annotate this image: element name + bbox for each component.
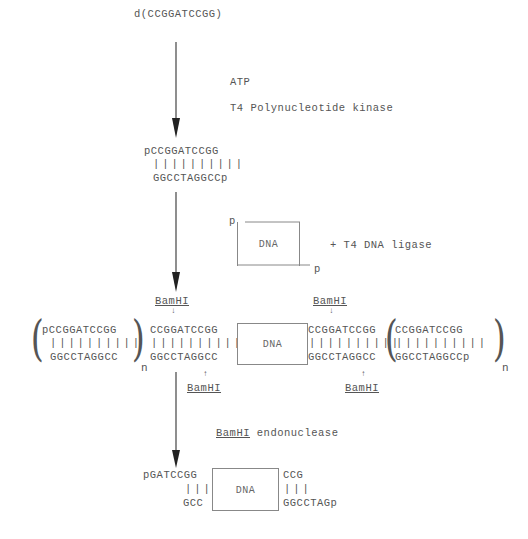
left-repeat-bonds: |||||||||| bbox=[50, 338, 142, 349]
left-repeat-top: pCCGGATCCGG bbox=[42, 325, 117, 336]
dna-fragment-box: DNA bbox=[237, 323, 308, 365]
final-right-bonds: ||| bbox=[284, 484, 312, 495]
cut-arrow-down-icon: ↓ bbox=[329, 307, 334, 315]
dna-fragment-label: DNA bbox=[238, 339, 307, 350]
right-repeat-bonds: |||||||||| bbox=[396, 338, 488, 349]
dna-fragment-box: DNA bbox=[237, 222, 300, 266]
right-linker-bottom: GGCCTAGGCC bbox=[308, 352, 376, 363]
reagent-atp: ATP bbox=[230, 77, 250, 88]
left-linker-top: CCGGATCCGG bbox=[150, 325, 218, 336]
enzyme-suffix: endonuclease bbox=[250, 427, 338, 439]
dna-fragment-box: DNA bbox=[212, 468, 279, 511]
cut-arrow-up-icon: ↑ bbox=[361, 370, 366, 378]
cut-arrow-down-icon: ↓ bbox=[171, 307, 176, 315]
start-oligo: d(CCGGATCCGG) bbox=[134, 9, 222, 20]
right-repeat-bottom: GGCCTAGGCCp bbox=[395, 352, 470, 363]
arrow-down-icon bbox=[172, 272, 180, 292]
left-repeat-count: n bbox=[141, 363, 148, 374]
arrow-down-icon bbox=[172, 118, 180, 138]
linker-bonds: |||||||||| bbox=[153, 159, 245, 170]
right-linker-top: CCGGATCCGG bbox=[308, 325, 376, 336]
reagent-ligase: + T4 DNA ligase bbox=[330, 240, 432, 251]
left-repeat-bottom: GGCCTAGGCC bbox=[50, 352, 118, 363]
right-repeat-close-paren: ) bbox=[493, 314, 506, 362]
final-left-top: pGATCCGG bbox=[143, 470, 197, 481]
reaction-arrows bbox=[0, 0, 528, 539]
dna-fragment-label: DNA bbox=[238, 239, 299, 250]
phosphate-left: p bbox=[229, 216, 236, 227]
final-right-top: CCG bbox=[283, 470, 303, 481]
left-repeat-close-paren: ) bbox=[132, 314, 145, 362]
dna-fragment-label: DNA bbox=[213, 484, 278, 495]
left-linker-bottom: GGCCTAGGCC bbox=[150, 352, 218, 363]
bamhi-label-bottom-right: BamHI bbox=[345, 383, 379, 394]
left-repeat-open-paren: ( bbox=[31, 314, 44, 362]
final-right-bottom: GGCCTAGp bbox=[283, 498, 337, 509]
linker-top-strand: pCCGGATCCGG bbox=[144, 146, 219, 157]
bamhi-label-top-right: BamHI bbox=[313, 296, 347, 307]
right-repeat-top: CCGGATCCGG bbox=[395, 325, 463, 336]
final-left-bonds: ||| bbox=[185, 484, 213, 495]
final-left-bottom: GCC bbox=[183, 498, 203, 509]
arrow-down-icon bbox=[172, 450, 180, 468]
cut-arrow-up-icon: ↑ bbox=[203, 370, 208, 378]
enzyme-name: BamHI bbox=[216, 427, 250, 439]
bamhi-label-top-left: BamHI bbox=[155, 296, 189, 307]
right-repeat-count: n bbox=[502, 363, 509, 374]
reagent-kinase: T4 Polynucleotide kinase bbox=[230, 103, 393, 114]
left-linker-bonds: |||||||||| bbox=[151, 338, 243, 349]
phosphate-right: p bbox=[314, 264, 321, 275]
bamhi-label-bottom-left: BamHI bbox=[187, 383, 221, 394]
reagent-bamhi-endonuclease: BamHI endonuclease bbox=[216, 428, 338, 439]
linker-bottom-strand: GGCCTAGGCCp bbox=[153, 173, 228, 184]
